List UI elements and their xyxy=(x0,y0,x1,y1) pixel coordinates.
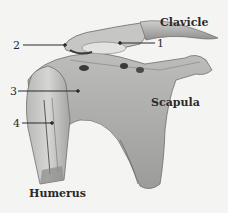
scapula-label: Scapula xyxy=(151,97,200,108)
humerus-shape xyxy=(26,66,70,184)
callout-2: 2 xyxy=(13,40,20,51)
humerus-label: Humerus xyxy=(29,188,86,199)
shoulder-diagram: Clavicle Scapula Humerus 1 2 3 4 xyxy=(0,0,228,213)
callout-3: 3 xyxy=(10,86,17,97)
callout-4: 4 xyxy=(13,118,20,129)
clavicle-label: Clavicle xyxy=(160,17,209,28)
callout-1: 1 xyxy=(157,38,164,49)
